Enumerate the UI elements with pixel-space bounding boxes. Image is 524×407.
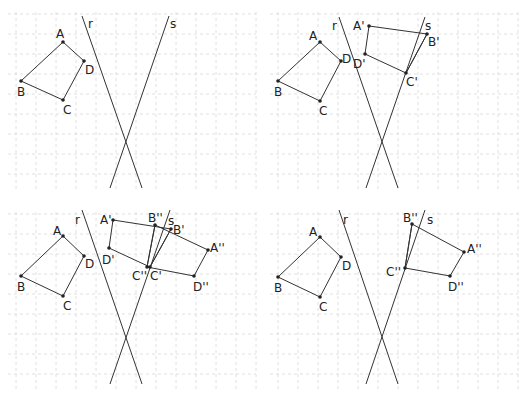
geometry-canvas: rsABCD	[0, 0, 262, 203]
point-label-c: C	[319, 300, 327, 314]
geometry-canvas: rsABCDA'B''B'A''D''C'C''D'	[0, 200, 262, 403]
point-label-d-double-prime: D''	[193, 280, 209, 294]
point-label-b: B	[17, 280, 25, 294]
point-b	[19, 79, 23, 83]
point-label-b: B	[274, 85, 282, 99]
segment-c-double-prime-b-double-prime	[405, 224, 412, 268]
quadrilateral-abcd	[21, 42, 84, 100]
line-s	[110, 16, 169, 188]
line-label-r: r	[75, 213, 80, 227]
line-r	[339, 17, 398, 188]
point-label-d: D	[85, 63, 94, 77]
point-d-prime	[363, 52, 367, 56]
point-label-c: C	[63, 103, 71, 117]
point-d-prime	[107, 246, 111, 250]
point-label-a-double-prime: A''	[210, 241, 225, 255]
quadrilateral-abcd	[278, 42, 341, 101]
point-b	[276, 79, 280, 83]
point-a	[318, 235, 322, 239]
point-label-d-prime: D'	[102, 253, 115, 267]
point-label-c-prime: C'	[406, 75, 418, 89]
line-s	[110, 210, 170, 384]
point-c	[318, 295, 322, 299]
panel-final-image: rsABCDB''A''D''C''	[262, 200, 524, 403]
point-label-b-double-prime: B''	[148, 211, 163, 225]
grid	[8, 212, 256, 390]
point-c	[318, 99, 322, 103]
point-label-b: B	[17, 85, 25, 99]
quadrilateral-abcd	[278, 237, 341, 297]
point-c	[61, 98, 65, 102]
point-a-prime	[111, 218, 115, 222]
point-label-a-double-prime: A''	[467, 242, 482, 256]
line-r	[82, 210, 142, 384]
point-label-c: C	[63, 299, 71, 313]
point-label-b-prime: B'	[173, 223, 185, 237]
point-b	[19, 274, 23, 278]
point-label-a: A	[309, 225, 318, 239]
point-d-double-prime	[192, 274, 196, 278]
point-label-d: D	[85, 257, 94, 271]
point-label-c-prime: C'	[150, 269, 162, 283]
line-s	[366, 210, 425, 384]
geometry-canvas: rsABCDA'B'C'D'	[262, 0, 524, 203]
line-r	[339, 210, 398, 384]
panel-both-reflections: rsABCDA'B''B'A''D''C'C''D'	[0, 200, 262, 403]
point-label-b: B	[274, 281, 282, 295]
line-label-s: s	[427, 213, 433, 227]
line-label-r: r	[343, 213, 348, 227]
grid	[8, 12, 256, 190]
point-c	[61, 294, 65, 298]
line-label-s: s	[425, 19, 431, 33]
point-c-double-prime	[403, 266, 407, 270]
point-d-double-prime	[448, 274, 452, 278]
line-r	[82, 16, 142, 188]
point-label-c-double-prime: C''	[386, 265, 401, 279]
point-a-prime	[367, 24, 371, 28]
line-label-s: s	[170, 17, 176, 31]
quadrilateral-abcd	[21, 236, 84, 296]
point-label-a: A	[309, 29, 318, 43]
line-label-r: r	[332, 19, 337, 33]
point-a	[318, 40, 322, 44]
panel-first-reflection: rsABCDA'B'C'D'	[262, 0, 524, 203]
quadrilateral-a-primeb-primec-primed-prime	[109, 220, 171, 267]
point-label-a-prime: A'	[100, 213, 112, 227]
point-label-d: D	[342, 52, 351, 66]
point-label-c: C	[319, 104, 327, 118]
point-label-a-prime: A'	[353, 19, 365, 33]
point-a	[61, 234, 65, 238]
point-label-b-double-prime: B''	[403, 211, 418, 225]
point-label-b-prime: B'	[428, 35, 440, 49]
line-s	[366, 17, 425, 188]
point-label-a: A	[56, 27, 65, 41]
point-label-d-prime: D'	[353, 57, 366, 71]
point-label-c-double-prime: C''	[132, 269, 147, 283]
point-label-d-double-prime: D''	[448, 280, 464, 294]
point-label-d: D	[342, 259, 351, 273]
segment-c-prime-b-prime	[406, 34, 427, 73]
geometry-canvas: rsABCDB''A''D''C''	[262, 200, 524, 403]
panel-original: rsABCD	[0, 0, 262, 203]
line-label-r: r	[88, 17, 93, 31]
point-b	[276, 275, 280, 279]
grid	[270, 12, 518, 190]
quadrilateral-a-double-primeb-double-primec-double-primed-double-prime	[405, 224, 464, 276]
point-a-double-prime	[462, 250, 466, 254]
point-label-a: A	[53, 224, 62, 238]
